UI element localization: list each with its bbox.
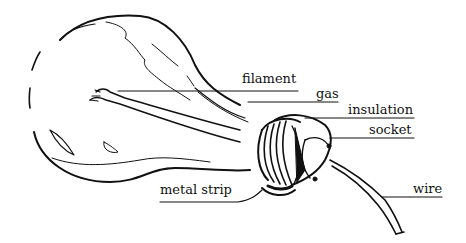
label-socket: socket <box>369 123 412 137</box>
metal-strip <box>262 186 295 195</box>
socket-threads <box>258 119 305 185</box>
bulb-glass <box>29 16 250 182</box>
label-filament: filament <box>242 72 296 86</box>
label-insulation: insulation <box>348 103 413 117</box>
label-wire: wire <box>413 182 442 196</box>
label-metal-strip: metal strip <box>160 183 232 197</box>
label-gas: gas <box>316 87 339 101</box>
